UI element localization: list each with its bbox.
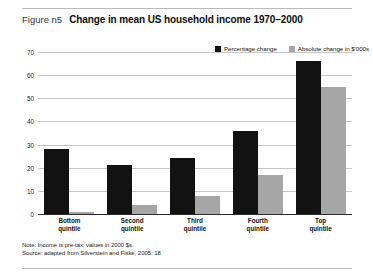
bar <box>107 165 132 214</box>
legend-entry: Percentage change <box>215 45 277 52</box>
legend-swatch-percentage-change <box>215 46 221 52</box>
x-axis-category-label: Thirdquintile <box>164 217 227 233</box>
page-title: Change in mean US household income 1970–… <box>69 14 302 25</box>
x-axis-category-label-line: Fourth <box>226 217 289 225</box>
x-axis-category-label-line: quintile <box>164 225 227 233</box>
bar <box>132 205 157 214</box>
bar-group <box>38 52 101 214</box>
bar <box>195 196 220 215</box>
x-axis-labels: BottomquintileSecondquintileThirdquintil… <box>38 217 352 233</box>
y-axis-tick-label: 30 <box>27 141 34 148</box>
x-axis-category-label-line: Bottom <box>38 217 101 225</box>
figure-notes: Note: Income is pre-tax; values in 2000 … <box>22 241 161 258</box>
chart-legend: Percentage changeAbsolute change in $'00… <box>215 45 369 52</box>
x-axis-category-label-line: quintile <box>226 225 289 233</box>
x-axis-category-label-line: Top <box>289 217 352 225</box>
bar <box>44 149 69 214</box>
bar-group <box>164 52 227 214</box>
x-axis-category-label-line: quintile <box>101 225 164 233</box>
x-axis-category-label-line: Third <box>164 217 227 225</box>
y-axis-tick-label: 50 <box>27 95 34 102</box>
bar-group <box>101 52 164 214</box>
x-axis-category-label: Topquintile <box>289 217 352 233</box>
x-axis-category-label-line: quintile <box>38 225 101 233</box>
top-divider <box>22 8 352 9</box>
bar-group <box>226 52 289 214</box>
y-axis-tick-label: 20 <box>27 164 34 171</box>
bar <box>321 87 346 214</box>
bar <box>233 131 258 214</box>
bottom-divider <box>22 268 352 269</box>
legend-label: Absolute change in $'000s <box>298 45 369 52</box>
x-axis-category-label: Fourthquintile <box>226 217 289 233</box>
bar <box>258 175 283 214</box>
bar-groups <box>38 52 352 214</box>
x-axis-category-label: Bottomquintile <box>38 217 101 233</box>
y-axis-tick-label: 60 <box>27 72 34 79</box>
y-axis-tick-label: 10 <box>27 187 34 194</box>
figure-container: Figure n5 Change in mean US household in… <box>0 0 373 280</box>
legend-swatch-absolute-change <box>289 46 295 52</box>
legend-entry: Absolute change in $'000s <box>289 45 369 52</box>
y-axis-tick-label: 0 <box>30 211 34 218</box>
y-axis-tick-label: 70 <box>27 49 34 56</box>
figure-heading: Figure n5 Change in mean US household in… <box>22 14 303 25</box>
legend-label: Percentage change <box>224 45 277 52</box>
x-axis-category-label: Secondquintile <box>101 217 164 233</box>
x-axis-line: 0 <box>38 214 352 215</box>
bar <box>296 61 321 214</box>
figure-number: Figure n5 <box>22 14 62 25</box>
bar-group <box>289 52 352 214</box>
x-axis-category-label-line: Second <box>101 217 164 225</box>
bar <box>69 212 94 214</box>
note-text: Note: Income is pre-tax; values in 2000 … <box>22 241 161 249</box>
plot-area: 010203040506070 <box>38 52 352 214</box>
source-text: Source: adapted from Silverstein and Fis… <box>22 249 161 257</box>
y-axis-tick-label: 40 <box>27 118 34 125</box>
x-axis-category-label-line: quintile <box>289 225 352 233</box>
bar <box>170 158 195 214</box>
